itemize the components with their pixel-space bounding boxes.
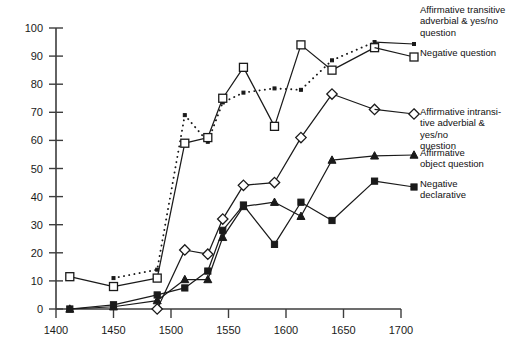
marker-open-diamond bbox=[327, 89, 337, 99]
legend-label: Negative declarative bbox=[420, 178, 512, 201]
y-axis: 0102030405060708090100 bbox=[25, 22, 63, 315]
legend-item-affirmative-object-question: Affirmative object question bbox=[420, 147, 512, 170]
marker-solid-square bbox=[298, 199, 304, 205]
marker-open-diamond bbox=[152, 304, 162, 314]
marker-solid-square bbox=[220, 227, 226, 233]
y-axis-ticks: 0102030405060708090100 bbox=[25, 22, 63, 315]
y-tick-label: 90 bbox=[31, 50, 43, 62]
marker-dot bbox=[273, 87, 276, 90]
legend-label: Affirmative intransi- tive adverbial & y… bbox=[420, 106, 512, 152]
marker-open-square bbox=[297, 41, 305, 49]
marker-solid-square bbox=[110, 302, 116, 308]
x-tick-label: 1400 bbox=[44, 324, 68, 336]
legend-item-negative-declarative: Negative declarative bbox=[420, 178, 512, 201]
x-axis-ticks: 1400145015001550160016501700 bbox=[44, 309, 413, 336]
marker-open-square bbox=[181, 139, 189, 147]
marker-solid-square bbox=[411, 184, 417, 190]
marker-open-square bbox=[239, 63, 247, 71]
marker-open-square bbox=[410, 53, 418, 61]
marker-open-diamond bbox=[218, 214, 228, 224]
x-tick-label: 1650 bbox=[331, 324, 355, 336]
marker-dot bbox=[183, 114, 186, 117]
marker-solid-square bbox=[240, 202, 246, 208]
legend-item-affirmative-intransitive: Affirmative intransi- tive adverbial & y… bbox=[420, 106, 512, 152]
marker-solid-triangle bbox=[271, 198, 279, 205]
marker-open-diamond bbox=[203, 249, 213, 259]
marker-open-diamond bbox=[269, 177, 279, 187]
marker-open-diamond bbox=[409, 109, 419, 119]
y-tick-label: 0 bbox=[37, 303, 43, 315]
y-tick-label: 20 bbox=[31, 247, 43, 259]
y-tick-label: 40 bbox=[31, 191, 43, 203]
legend-label: Affirmative transitive adverbial & yes/n… bbox=[420, 4, 512, 38]
marker-solid-square bbox=[271, 241, 277, 247]
y-tick-label: 80 bbox=[31, 78, 43, 90]
legend-leader-line bbox=[375, 155, 414, 156]
marker-open-square bbox=[110, 283, 118, 291]
x-axis: 1400145015001550160016501700 bbox=[44, 309, 413, 336]
series-4 bbox=[67, 178, 378, 312]
x-tick-label: 1600 bbox=[274, 324, 298, 336]
marker-solid-square bbox=[182, 285, 188, 291]
data-series-layer bbox=[66, 41, 380, 315]
marker-dot bbox=[299, 88, 302, 91]
series-1 bbox=[66, 41, 379, 291]
legend-leader-line bbox=[375, 48, 414, 57]
marker-open-square bbox=[271, 122, 279, 130]
y-tick-label: 100 bbox=[25, 22, 43, 34]
x-tick-label: 1700 bbox=[389, 324, 413, 336]
marker-open-diamond bbox=[180, 245, 190, 255]
legend-leader-lines bbox=[375, 42, 420, 190]
y-tick-label: 50 bbox=[31, 163, 43, 175]
legend-item-affirmative-transitive: Affirmative transitive adverbial & yes/n… bbox=[420, 4, 512, 38]
marker-dot bbox=[331, 59, 334, 62]
legend-label: Negative question bbox=[420, 47, 512, 58]
legend-leader-line bbox=[375, 42, 414, 44]
legend-label: Affirmative object question bbox=[420, 147, 512, 170]
legend-leader-line bbox=[375, 109, 414, 114]
marker-open-diamond bbox=[296, 132, 306, 142]
marker-dot bbox=[242, 91, 245, 94]
marker-open-square bbox=[204, 134, 212, 142]
marker-open-square bbox=[219, 94, 227, 102]
marker-open-square bbox=[328, 66, 336, 74]
marker-solid-square bbox=[67, 306, 73, 312]
x-tick-label: 1550 bbox=[216, 324, 240, 336]
series-line bbox=[157, 94, 374, 309]
marker-open-square bbox=[66, 273, 74, 281]
y-tick-label: 60 bbox=[31, 134, 43, 146]
marker-solid-square bbox=[154, 292, 160, 298]
marker-solid-square bbox=[329, 217, 335, 223]
x-tick-label: 1450 bbox=[101, 324, 125, 336]
chart-container: 0102030405060708090100 14001450150015501… bbox=[0, 0, 512, 350]
x-tick-label: 1500 bbox=[159, 324, 183, 336]
legend-item-negative-question: Negative question bbox=[420, 47, 512, 58]
marker-dot bbox=[112, 277, 115, 280]
y-tick-label: 10 bbox=[31, 275, 43, 287]
marker-open-square bbox=[153, 274, 161, 282]
marker-dot bbox=[413, 43, 416, 46]
y-tick-label: 30 bbox=[31, 219, 43, 231]
marker-solid-square bbox=[205, 268, 211, 274]
marker-solid-triangle bbox=[297, 212, 305, 219]
legend-leader-line bbox=[375, 181, 414, 187]
y-tick-label: 70 bbox=[31, 106, 43, 118]
marker-open-diamond bbox=[238, 180, 248, 190]
